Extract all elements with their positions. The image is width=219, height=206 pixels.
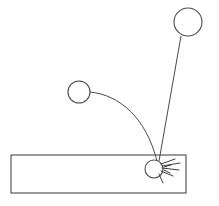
small-projectile-circle <box>68 81 90 103</box>
splatter-ray <box>161 159 175 164</box>
splatter-ray <box>162 163 180 166</box>
straight-trajectory-path <box>159 36 181 161</box>
impact-body-circle <box>145 160 163 178</box>
splatter-ray <box>162 168 179 170</box>
curved-trajectory-path <box>90 92 157 161</box>
trajectory-impact-figure <box>0 0 219 206</box>
diagram-canvas <box>0 0 219 206</box>
large-projectile-circle <box>174 8 202 36</box>
impact-splatter-group <box>159 159 180 183</box>
